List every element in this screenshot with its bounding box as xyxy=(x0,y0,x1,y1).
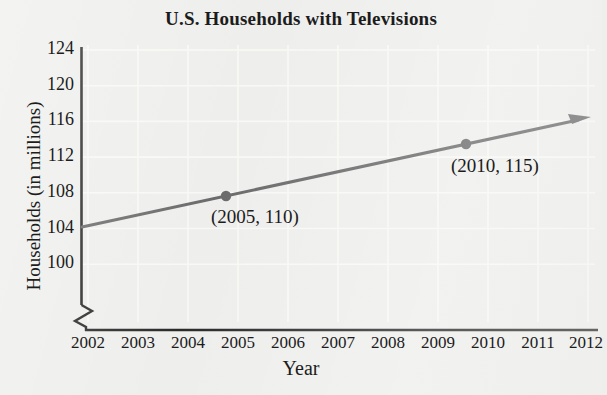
gridlines xyxy=(82,45,595,322)
data-point-marker-2005 xyxy=(221,191,231,201)
y-tick-label-100: 100 xyxy=(32,252,74,273)
y-tick-label-116: 116 xyxy=(32,109,74,130)
y-tick-label-108: 108 xyxy=(32,181,74,202)
y-tick-label-112: 112 xyxy=(32,145,74,166)
axis-break-symbol xyxy=(75,305,92,331)
chart-title: U.S. Households with Televisions xyxy=(0,8,602,30)
y-tick-label-124: 124 xyxy=(32,38,74,59)
x-tick-label-2006: 2006 xyxy=(262,333,314,353)
y-tick-label-120: 120 xyxy=(32,74,74,95)
x-tick-label-2007: 2007 xyxy=(312,333,364,353)
x-axis-label: Year xyxy=(0,357,602,380)
x-tick-label-2002: 2002 xyxy=(62,333,114,353)
x-tick-label-2004: 2004 xyxy=(162,333,214,353)
y-tick-label-104: 104 xyxy=(32,217,74,238)
x-tick-label-2009: 2009 xyxy=(412,333,464,353)
data-point-annotation-2010: (2010, 115) xyxy=(451,155,539,177)
data-point-annotation-2005: (2005, 110) xyxy=(211,206,299,228)
x-tick-label-2011: 2011 xyxy=(512,333,564,353)
x-tick-label-2008: 2008 xyxy=(362,333,414,353)
x-tick-label-2003: 2003 xyxy=(112,333,164,353)
x-tick-label-2012: 2012 xyxy=(560,333,607,353)
x-tick-label-2005: 2005 xyxy=(212,333,264,353)
x-tick-label-2010: 2010 xyxy=(462,333,514,353)
data-point-marker-2010 xyxy=(461,139,471,149)
